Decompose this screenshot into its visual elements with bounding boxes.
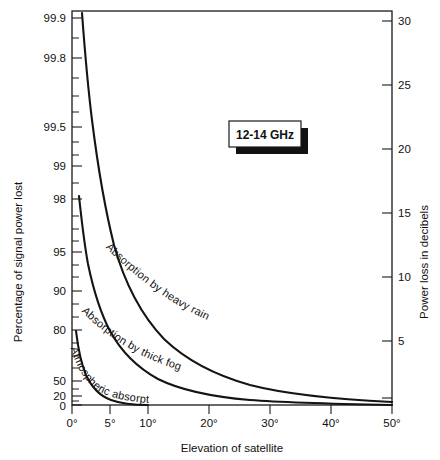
y2-ticklabel-10: 10 [398, 271, 411, 283]
x-ticklabel-10: 10° [139, 417, 156, 429]
y-ticklabel-80: 80 [53, 324, 66, 336]
chart-svg: 99.9 99.8 99.5 99 98 95 90 80 50 20 0 30… [0, 0, 440, 460]
y2-ticklabel-30: 30 [398, 15, 411, 27]
y-ticklabel-99-5: 99.5 [44, 121, 66, 133]
y2-ticklabel-25: 25 [398, 79, 411, 91]
y2-ticklabel-15: 15 [398, 207, 411, 219]
y2-ticklabel-20: 20 [398, 143, 411, 155]
y-axis-right-title: Power loss in decibels [418, 205, 430, 319]
x-axis-title: Elevation of satellite [181, 442, 283, 454]
y-ticklabel-99: 99 [53, 160, 66, 172]
x-ticklabel-50: 50° [383, 417, 400, 429]
x-axis-ticks [72, 405, 392, 414]
y-ticklabel-50: 50 [53, 375, 66, 387]
y2-ticklabel-5: 5 [398, 335, 404, 347]
y-axis-left-labels: 99.9 99.8 99.5 99 98 95 90 80 50 20 0 [44, 12, 66, 412]
frequency-band-legend: 12-14 GHz [229, 121, 308, 154]
x-ticklabel-20: 20° [200, 417, 217, 429]
legend-frequency-label: 12-14 GHz [236, 128, 294, 142]
y-ticklabel-90: 90 [53, 285, 66, 297]
y-ticklabel-99-8: 99.8 [44, 52, 66, 64]
chart-figure: 99.9 99.8 99.5 99 98 95 90 80 50 20 0 30… [0, 0, 440, 460]
y-ticklabel-95: 95 [53, 246, 66, 258]
x-ticklabel-40: 40° [322, 417, 339, 429]
y-ticklabel-0: 0 [60, 400, 66, 412]
y-ticklabel-99-9: 99.9 [44, 12, 66, 24]
y-axis-left-title: Percentage of signal power lost [12, 181, 24, 342]
x-ticklabel-0: 0° [67, 417, 78, 429]
y-axis-right-labels: 30 25 20 15 10 5 [398, 15, 411, 347]
x-axis-labels: 0° 5° 10° 20° 30° 40° 50° [67, 417, 401, 429]
y-ticklabel-98: 98 [53, 193, 66, 205]
x-ticklabel-30: 30° [261, 417, 278, 429]
x-ticklabel-5: 5° [105, 417, 116, 429]
